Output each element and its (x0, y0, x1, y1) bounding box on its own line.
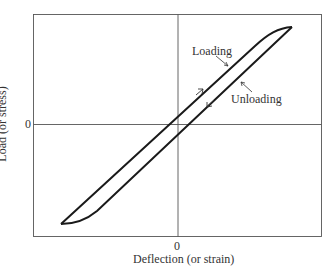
loading-curve (61, 27, 292, 224)
hysteresis-diagram: Loading Unloading 0 0 Deflection (or str… (0, 0, 335, 267)
loading-label: Loading (192, 45, 232, 57)
unloading-leader-arrow-icon (241, 82, 252, 92)
unloading-curve (61, 27, 292, 224)
unloading-label: Unloading (231, 93, 282, 105)
y-axis-label: Load (or stress) (0, 86, 10, 161)
x-zero-tick-label: 0 (174, 240, 180, 252)
y-zero-tick-label: 0 (25, 118, 31, 130)
unloading-direction-arrow-icon (207, 100, 214, 107)
diagram-canvas (0, 0, 335, 267)
x-axis-label: Deflection (or strain) (133, 253, 234, 265)
plot-frame (34, 15, 322, 237)
